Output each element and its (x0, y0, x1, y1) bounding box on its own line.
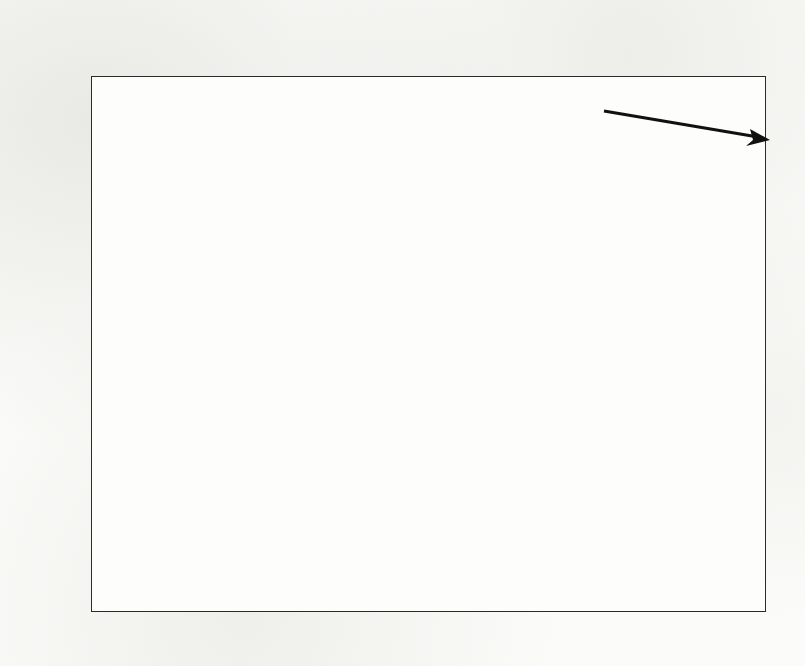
stacked-area-series (92, 77, 766, 612)
conservation-savings-chart (0, 0, 805, 666)
plot-area (91, 76, 766, 612)
